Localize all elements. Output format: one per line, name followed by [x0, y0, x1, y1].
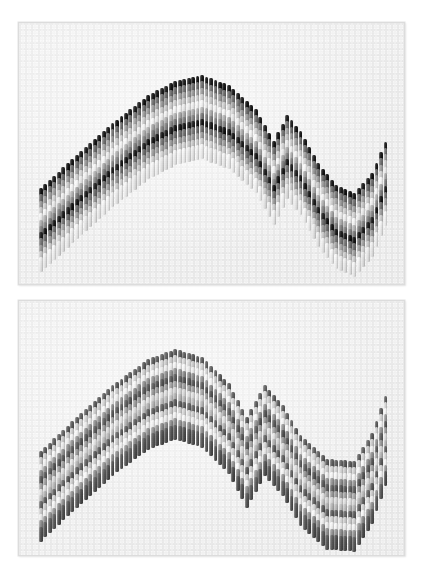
bargello-stitch — [196, 431, 200, 446]
bargello-stitch — [102, 469, 106, 484]
bargello-stitch — [312, 224, 316, 239]
bargello-stitch — [79, 489, 83, 504]
bargello-stitch — [236, 476, 240, 491]
bargello-stitch — [366, 516, 370, 531]
bargello-stitch — [321, 238, 325, 253]
bargello-stitch — [236, 162, 240, 177]
bargello-stitch — [160, 430, 164, 445]
bargello-stitch — [133, 175, 137, 190]
bargello-stitch — [330, 249, 334, 264]
bargello-stitch — [245, 493, 249, 508]
bargello-stitch — [222, 153, 226, 168]
bargello-stitch — [245, 170, 249, 185]
bargello-stitch — [357, 530, 361, 545]
bargello-stitch — [200, 433, 204, 448]
bargello-stitch — [267, 466, 271, 481]
bargello-stitch — [290, 190, 294, 205]
bargello-stitch — [120, 185, 124, 200]
bargello-stitch — [111, 192, 115, 207]
bargello-stitch — [209, 441, 213, 456]
bargello-stitch — [352, 262, 356, 277]
bargello-stitch — [48, 249, 52, 264]
bargello-stitch — [299, 200, 303, 215]
stitch-layer-top — [19, 23, 404, 284]
bargello-stitch — [151, 162, 155, 177]
bargello-stitch — [160, 157, 164, 172]
bargello-stitch — [316, 527, 320, 542]
bargello-stitch — [164, 428, 168, 443]
bargello-stitch — [294, 195, 298, 210]
bargello-stitch — [128, 178, 132, 193]
bargello-stitch — [43, 253, 47, 268]
bargello-stitch — [115, 189, 119, 204]
bargello-stitch — [222, 454, 226, 469]
photo-canvas — [0, 0, 422, 586]
bargello-stitch — [88, 212, 92, 227]
bargello-stitch — [307, 519, 311, 534]
bargello-stitch — [57, 241, 61, 256]
bargello-stitch — [218, 450, 222, 465]
bargello-stitch — [348, 536, 352, 551]
bargello-stitch — [52, 514, 56, 529]
bargello-stitch — [231, 467, 235, 482]
bargello-stitch — [187, 429, 191, 444]
bargello-stitch — [182, 148, 186, 163]
bargello-stitch — [39, 257, 43, 272]
bargello-stitch — [61, 237, 65, 252]
bargello-stitch — [214, 149, 218, 164]
bargello-stitch — [258, 469, 262, 484]
bargello-stitch — [254, 477, 258, 492]
bargello-stitch — [240, 484, 244, 499]
bargello-stitch — [133, 444, 137, 459]
bargello-stitch — [97, 473, 101, 488]
bargello-stitch — [321, 531, 325, 546]
bargello-stitch — [258, 186, 262, 201]
bargello-stitch — [182, 427, 186, 442]
bargello-stitch — [106, 465, 110, 480]
stitch-layer-bottom — [19, 301, 404, 555]
bargello-stitch — [52, 245, 56, 260]
bargello-stitch — [93, 208, 97, 223]
bargello-stitch — [137, 171, 141, 186]
bargello-stitch — [240, 166, 244, 181]
bargello-stitch — [70, 497, 74, 512]
bargello-stitch — [366, 247, 370, 262]
bargello-stitch — [209, 148, 213, 163]
bargello-stitch — [276, 202, 280, 217]
bargello-stitch — [169, 153, 173, 168]
bargello-stitch — [70, 228, 74, 243]
bargello-stitch — [285, 488, 289, 503]
bargello-stitch — [205, 437, 209, 452]
bargello-stitch — [169, 426, 173, 441]
bargello-stitch — [384, 211, 388, 226]
bargello-stitch — [57, 510, 61, 525]
bargello-stitch — [142, 168, 146, 183]
bargello-stitch — [348, 260, 352, 275]
bargello-stitch — [111, 461, 115, 476]
bargello-stitch — [339, 536, 343, 551]
bargello-stitch — [361, 252, 365, 267]
bargello-stitch — [151, 433, 155, 448]
bargello-stitch — [120, 454, 124, 469]
bargello-stitch — [155, 431, 159, 446]
bargello-stitch — [249, 485, 253, 500]
bargello-stitch — [290, 496, 294, 511]
bargello-stitch — [281, 193, 285, 208]
bargello-stitch — [66, 501, 70, 516]
bargello-stitch — [343, 536, 347, 551]
bargello-stitch — [75, 493, 79, 508]
bargello-stitch — [303, 515, 307, 530]
bargello-stitch — [334, 535, 338, 550]
bargello-stitch — [316, 232, 320, 247]
bargello-stitch — [231, 158, 235, 173]
bargello-stitch — [370, 242, 374, 257]
bargello-stitch — [330, 535, 334, 550]
bargello-stitch — [312, 523, 316, 538]
bargello-stitch — [249, 174, 253, 189]
bargello-stitch — [191, 146, 195, 161]
bargello-stitch — [214, 446, 218, 461]
bargello-stitch — [379, 484, 383, 499]
bargello-stitch — [370, 509, 374, 524]
bargello-stitch — [173, 425, 177, 440]
bargello-stitch — [267, 202, 271, 217]
